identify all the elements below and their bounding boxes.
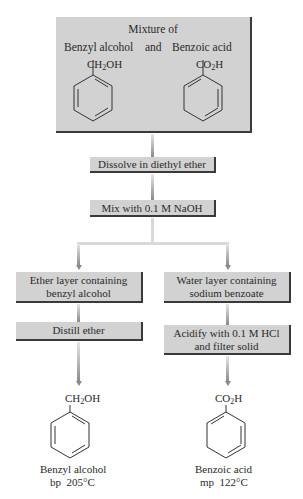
mix-step-label: Mix with 0.1 M NaOH	[90, 200, 214, 215]
dissolve-step-label: Dissolve in diethyl ether	[90, 157, 214, 171]
compound-2-label: Benzoic acid	[172, 41, 232, 54]
arrow-down-icon	[76, 265, 82, 270]
dissolve-step-box: Dissolve in diethyl ether	[90, 157, 216, 173]
benzene-ring-icon	[180, 58, 226, 128]
arrow-down-icon	[225, 381, 231, 386]
connector-line	[226, 304, 229, 325]
ether-layer-label: Ether layer containing	[16, 274, 141, 287]
benzene-ring-icon	[203, 404, 249, 464]
connector-line	[226, 356, 229, 382]
benzene-ring-icon	[70, 58, 116, 128]
arrow-down-icon	[76, 381, 82, 386]
ether-layer-box: Ether layer containing benzyl alcohol	[16, 272, 143, 303]
mix-step-box: Mix with 0.1 M NaOH	[90, 200, 216, 217]
water-layer-box: Water layer containing sodium benzoate	[164, 272, 291, 303]
benzene-ring-icon	[47, 404, 93, 464]
connector-line	[226, 244, 229, 266]
connector-line	[151, 174, 154, 200]
ether-layer-label: benzyl alcohol	[16, 287, 141, 300]
benzyl-alcohol-product-name: Benzyl alcohol	[40, 463, 106, 476]
benzoic-acid-melting-point: mp 122°C	[200, 476, 248, 489]
acidify-step-label: and filter solid	[164, 340, 289, 353]
benzoic-acid-product-name: Benzoic acid	[195, 463, 252, 476]
conjunction-label: and	[145, 41, 162, 54]
acidify-step-box: Acidify with 0.1 M HCl and filter solid	[164, 325, 291, 355]
split-connector	[77, 242, 229, 245]
mixture-heading: Mixture of	[56, 23, 250, 36]
compound-1-label: Benzyl alcohol	[64, 41, 133, 54]
water-layer-label: Water layer containing	[164, 274, 289, 287]
connector-line	[77, 244, 80, 266]
distill-step-label: Distill ether	[16, 322, 141, 337]
water-layer-label: sodium benzoate	[164, 287, 289, 300]
acidify-step-label: Acidify with 0.1 M HCl	[164, 327, 289, 340]
connector-line	[151, 218, 154, 243]
distill-step-box: Distill ether	[16, 322, 143, 341]
connector-line	[77, 304, 80, 322]
connector-line	[77, 342, 80, 382]
arrow-down-icon	[225, 265, 231, 270]
connector-line	[151, 134, 154, 157]
benzyl-alcohol-boiling-point: bp 205°C	[50, 476, 95, 489]
